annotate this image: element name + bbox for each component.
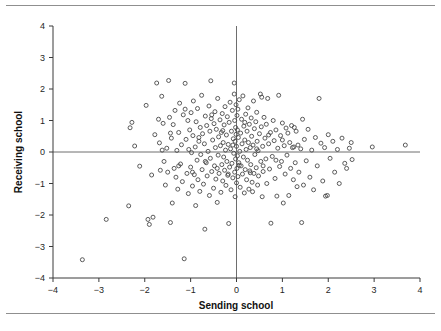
data-point bbox=[268, 167, 272, 171]
data-point bbox=[206, 149, 210, 153]
data-point bbox=[255, 110, 259, 114]
data-point bbox=[215, 200, 219, 204]
data-point bbox=[226, 142, 230, 146]
data-point bbox=[249, 116, 253, 120]
data-point bbox=[238, 185, 242, 189]
data-point bbox=[345, 166, 349, 170]
data-point bbox=[349, 141, 353, 145]
data-point bbox=[217, 135, 221, 139]
data-point bbox=[227, 222, 231, 226]
data-point bbox=[279, 159, 283, 163]
data-point bbox=[254, 166, 258, 170]
data-point bbox=[181, 113, 185, 117]
chart-canvas: −4−3−2−101234−4−3−2−101234 Sending schoo… bbox=[0, 0, 441, 331]
reference-lines-group bbox=[53, 26, 420, 278]
data-point bbox=[183, 81, 187, 85]
data-point bbox=[218, 118, 222, 122]
data-point bbox=[168, 221, 172, 225]
data-point bbox=[224, 183, 228, 187]
y-tick-label: 4 bbox=[40, 21, 45, 31]
data-point bbox=[295, 185, 299, 189]
data-point bbox=[201, 132, 205, 136]
data-point bbox=[302, 137, 306, 141]
data-point bbox=[285, 153, 289, 157]
data-point bbox=[180, 180, 184, 184]
data-point bbox=[274, 158, 278, 162]
data-point bbox=[241, 155, 245, 159]
data-point bbox=[291, 178, 295, 182]
data-point bbox=[228, 100, 232, 104]
data-point bbox=[215, 166, 219, 170]
data-point bbox=[174, 175, 178, 179]
data-point bbox=[183, 107, 187, 111]
data-point bbox=[247, 187, 251, 191]
data-point bbox=[217, 171, 221, 175]
data-point bbox=[185, 171, 189, 175]
data-point bbox=[250, 180, 254, 184]
data-point bbox=[403, 143, 407, 147]
data-point bbox=[195, 158, 199, 162]
data-point bbox=[238, 149, 242, 153]
data-point bbox=[200, 168, 204, 172]
data-point bbox=[256, 183, 260, 187]
data-point bbox=[190, 151, 194, 155]
data-point bbox=[222, 123, 226, 127]
data-point bbox=[246, 158, 250, 162]
data-point bbox=[208, 156, 212, 160]
data-point bbox=[260, 195, 264, 199]
data-point bbox=[240, 142, 244, 146]
data-point bbox=[220, 112, 224, 116]
data-point bbox=[163, 183, 167, 187]
x-tick-label: 0 bbox=[234, 285, 239, 295]
y-tick-label: 1 bbox=[40, 116, 45, 126]
data-point bbox=[229, 129, 233, 133]
data-point bbox=[214, 177, 218, 181]
data-point bbox=[267, 142, 271, 146]
data-point bbox=[246, 106, 250, 110]
data-point bbox=[203, 114, 207, 118]
y-tick-label: −2 bbox=[35, 210, 45, 220]
data-point bbox=[161, 121, 165, 125]
data-point bbox=[222, 155, 226, 159]
tick-labels-group: −4−3−2−101234−4−3−2−101234 bbox=[35, 21, 423, 295]
data-point bbox=[210, 170, 214, 174]
data-point bbox=[319, 141, 323, 145]
x-tick-label: −2 bbox=[140, 285, 150, 295]
data-point bbox=[239, 131, 243, 135]
data-point bbox=[147, 222, 151, 226]
y-tick-label: −1 bbox=[35, 179, 45, 189]
data-point bbox=[279, 134, 283, 138]
data-point bbox=[289, 166, 293, 170]
data-point bbox=[259, 159, 263, 163]
data-point bbox=[340, 136, 344, 140]
data-point bbox=[251, 190, 255, 194]
data-point bbox=[202, 142, 206, 146]
data-point bbox=[306, 127, 310, 131]
data-point bbox=[138, 164, 142, 168]
bottom-divider-rule bbox=[6, 313, 435, 314]
data-point bbox=[203, 227, 207, 231]
data-point bbox=[269, 221, 273, 225]
data-point bbox=[243, 168, 247, 172]
data-point bbox=[193, 145, 197, 149]
x-tick-label: −1 bbox=[185, 285, 195, 295]
data-point bbox=[104, 217, 108, 221]
data-point bbox=[246, 141, 250, 145]
data-point bbox=[240, 117, 244, 121]
data-point bbox=[194, 204, 198, 208]
data-point bbox=[263, 136, 267, 140]
data-point bbox=[221, 179, 225, 183]
data-point bbox=[150, 173, 154, 177]
data-point bbox=[262, 115, 266, 119]
data-point bbox=[304, 159, 308, 163]
data-point bbox=[189, 111, 193, 115]
data-point bbox=[293, 161, 297, 165]
data-point bbox=[186, 192, 190, 196]
data-point bbox=[208, 129, 212, 133]
data-point bbox=[244, 147, 248, 151]
data-point bbox=[271, 119, 275, 123]
data-point bbox=[229, 147, 233, 151]
data-point bbox=[245, 129, 249, 133]
data-point bbox=[251, 99, 255, 103]
y-tick-label: −4 bbox=[35, 273, 45, 283]
